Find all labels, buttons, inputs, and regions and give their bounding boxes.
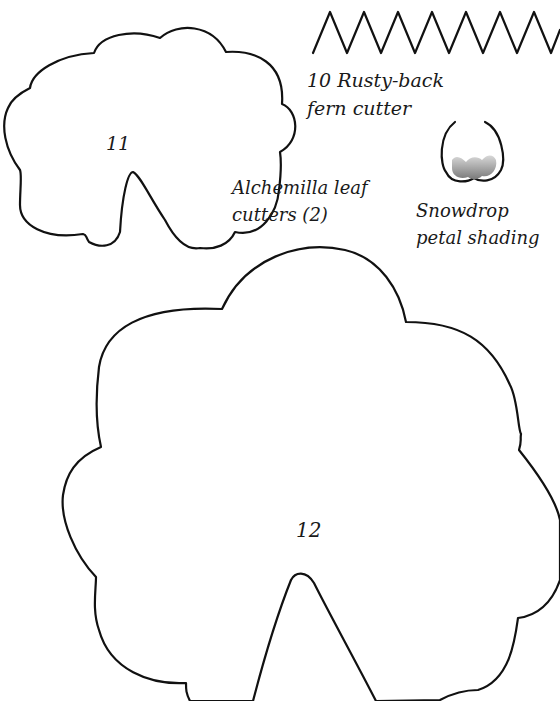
snowdrop-petal-outline <box>442 122 503 181</box>
snowdrop-label-line1: Snowdrop <box>416 197 540 224</box>
snowdrop-petal-shading <box>452 155 496 179</box>
snowdrop-label: Snowdrop petal shading <box>416 197 540 251</box>
fern-cutter-zigzag <box>313 12 560 53</box>
alchemilla-leaf-12-outline <box>63 247 560 701</box>
alchemilla-label-line1: Alchemilla leaf <box>232 174 368 201</box>
alchemilla-label-line2: cutters (2) <box>232 201 368 228</box>
snowdrop-label-line2: petal shading <box>416 224 540 251</box>
fern-cutter-label-line2: fern cutter <box>307 94 444 122</box>
fern-cutter-label: 10 Rusty-back fern cutter <box>307 66 444 122</box>
alchemilla-label: Alchemilla leaf cutters (2) <box>232 174 368 228</box>
fern-cutter-label-line1: 10 Rusty-back <box>307 66 444 94</box>
template-number-11: 11 <box>106 132 130 154</box>
template-number-12: 12 <box>296 518 321 542</box>
template-sheet <box>0 0 560 701</box>
